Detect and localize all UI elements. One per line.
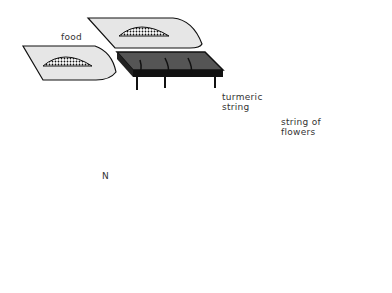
offering-diagram [0,0,392,293]
label-turmeric-string: turmeric string [222,92,263,112]
label-string-of-flowers: string of flowers [281,117,321,137]
food-leaf-top [88,18,202,48]
label-north: N [102,171,109,181]
food-leaf-left [23,46,116,80]
label-food: food [61,32,82,42]
dark-platform [117,52,223,90]
